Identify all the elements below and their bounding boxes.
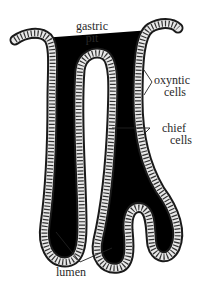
chief-cells-label-line2: cells — [162, 134, 192, 146]
gastric-pit-label: gastric pit — [72, 20, 112, 44]
oxyntic-cells-pointer — [144, 70, 152, 95]
gland-tube — [15, 24, 178, 269]
gastric-pit-label-line2: pit — [72, 32, 112, 44]
lumen-label-text: lumen — [56, 265, 86, 279]
lumen-label: lumen — [56, 266, 86, 278]
oxyntic-cells-label: oxyntic cells — [154, 74, 190, 98]
oxyntic-cells-label-line2: cells — [154, 86, 190, 98]
chief-cells-label: chief cells — [162, 122, 192, 146]
